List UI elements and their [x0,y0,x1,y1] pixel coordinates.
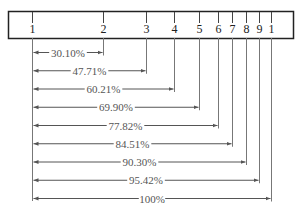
percentage-label: 84.51% [116,138,150,150]
percentage-label: 77.82% [109,120,143,132]
tick-label: 4 [172,22,178,36]
scale-box [9,12,294,39]
percentage-label: 95.42% [129,174,163,186]
tick-label: 5 [197,22,203,36]
tick-label: 9 [257,22,263,36]
percentage-label: 60.21% [87,83,121,95]
percentage-label: 100% [139,193,165,205]
percentage-label: 90.30% [123,156,157,168]
tick-label: 3 [144,22,150,36]
measurement-rows: 30.10%47.71%60.21%69.90%77.82%84.51%90.3… [33,38,272,205]
percentage-label: 47.71% [73,65,107,77]
tick-label: 7 [230,22,236,36]
tick-label: 1 [30,22,36,36]
log-scale-diagram: 1234567891 30.10%47.71%60.21%69.90%77.82… [0,0,301,209]
tick-label: 2 [101,22,107,36]
percentage-label: 30.10% [51,47,85,59]
percentage-label: 69.90% [99,101,133,113]
tick-label: 6 [216,22,222,36]
tick-label: 1 [269,22,275,36]
tick-label: 8 [244,22,250,36]
